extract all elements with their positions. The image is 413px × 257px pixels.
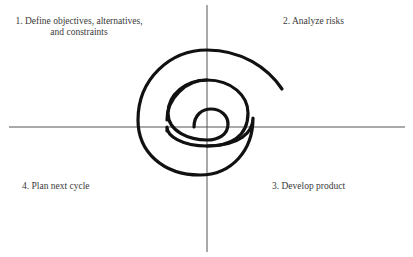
quadrant-3-label: 3. Develop product bbox=[272, 181, 345, 192]
quadrant-2-label: 2. Analyze risks bbox=[283, 16, 344, 27]
quadrant-4-label: 4. Plan next cycle bbox=[22, 181, 90, 192]
spiral-outer-loop bbox=[138, 50, 282, 175]
spiral-diagram bbox=[0, 0, 413, 257]
quadrant-1-label: 1. Define objectives, alternatives, and … bbox=[10, 16, 148, 38]
